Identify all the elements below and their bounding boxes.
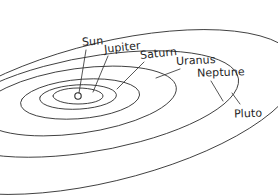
sun-leader-line	[79, 50, 86, 93]
label-sun: Sun	[82, 35, 104, 47]
orbit-canvas	[0, 0, 278, 195]
label-uranus: Uranus	[176, 54, 216, 67]
sun-marker-icon	[75, 93, 81, 99]
label-jupiter: Jupiter	[104, 40, 142, 55]
pluto-leader-line	[232, 93, 240, 104]
neptune-leader-line	[211, 81, 223, 101]
orbit-jupiter	[53, 88, 103, 104]
label-pluto: Pluto	[234, 108, 263, 120]
orbit-neptune	[0, 66, 176, 136]
jupiter-leader-line	[93, 56, 108, 92]
label-neptune: Neptune	[197, 66, 245, 79]
solar-system-diagram: Sun Jupiter Saturn Uranus Neptune Pluto	[0, 0, 278, 195]
